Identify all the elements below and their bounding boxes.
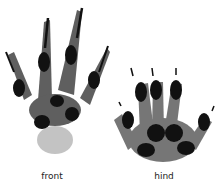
hind-footprint [108,60,218,170]
front-footprint [0,0,110,160]
front-label: front [22,171,82,181]
hind-label: hind [134,171,194,181]
